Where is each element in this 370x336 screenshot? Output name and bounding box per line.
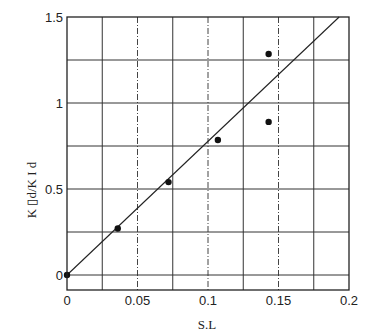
gridlines <box>67 17 349 290</box>
y-tick-label: 1.5 <box>45 10 63 25</box>
y-tick-labels: 00.511.5 <box>45 10 63 283</box>
x-tick-label: 0 <box>63 293 70 308</box>
x-tick-label: 0.05 <box>125 293 150 308</box>
y-tick-label: 0.5 <box>45 182 63 197</box>
x-tick-label: 0.1 <box>199 293 217 308</box>
y-axis-label: K ▯d/K I d <box>24 161 39 218</box>
data-point <box>115 225 121 231</box>
x-tick-label: 0.15 <box>266 293 291 308</box>
x-tick-label: 0.2 <box>340 293 358 308</box>
data-point <box>215 137 221 143</box>
chart: 00.050.10.150.2 00.511.5 S.L K ▯d/K I d <box>0 0 370 336</box>
y-tick-label: 0 <box>56 268 63 283</box>
y-tick-label: 1 <box>56 96 63 111</box>
data-point <box>265 51 271 57</box>
x-tick-labels: 00.050.10.150.2 <box>63 293 358 308</box>
data-point <box>165 179 171 185</box>
data-points <box>64 51 272 278</box>
data-point <box>265 119 271 125</box>
x-axis-label: S.L <box>198 317 216 332</box>
